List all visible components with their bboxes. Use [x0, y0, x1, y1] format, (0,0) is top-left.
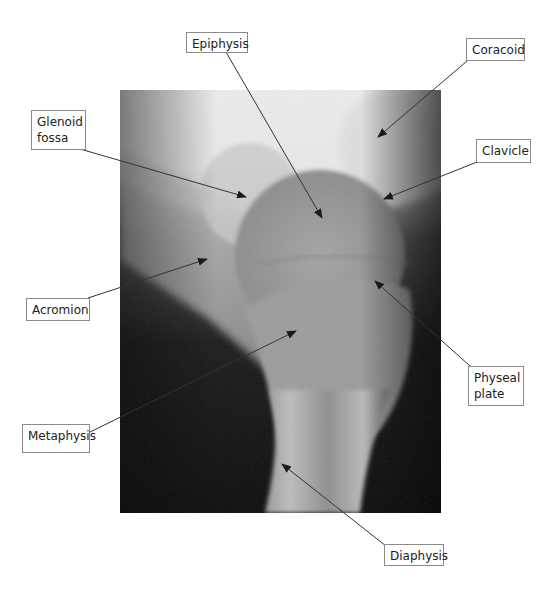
- label-coracoid: Coracoid: [466, 38, 525, 61]
- label-acromion: Acromion: [26, 298, 90, 321]
- label-physeal-plate: Physeal plate: [468, 366, 524, 406]
- label-epiphysis: Epiphysis: [186, 32, 248, 53]
- label-diaphysis: Diaphysis: [384, 544, 444, 566]
- xray-rendering: [120, 90, 441, 513]
- radiograph-image: [120, 90, 441, 513]
- label-metaphysis: Metaphysis: [22, 424, 90, 453]
- label-clavicle: Clavicle: [476, 139, 531, 163]
- label-glenoid-fossa: Glenoid fossa: [31, 110, 86, 150]
